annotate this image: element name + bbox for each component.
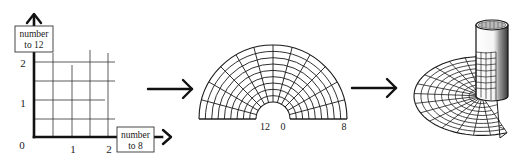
annulus-label-12: 12 — [260, 121, 270, 132]
x-tick-2: 2 — [106, 143, 112, 155]
annulus-panel — [199, 45, 347, 119]
origin-label: 0 — [19, 139, 25, 151]
cylinder-panel — [414, 20, 508, 138]
y-axis-label-box: number to 12 — [15, 26, 53, 52]
y-axis-label-line1: number — [19, 29, 49, 39]
x-axis-label-line2: to 8 — [128, 141, 143, 151]
cylinder — [476, 20, 508, 101]
arrow-grid-to-annulus — [148, 80, 192, 98]
x-tick-1: 1 — [70, 143, 76, 155]
annulus-label-8: 8 — [342, 121, 347, 132]
x-axis-arrowhead-icon — [163, 130, 171, 144]
annulus-label-0: 0 — [281, 121, 286, 132]
x-axis-label-box: number to 8 — [117, 127, 154, 152]
x-axis-label-line1: number — [121, 130, 151, 140]
diagram: number to 12 number to 8 0 1 2 1 2 12 0 … — [0, 0, 520, 159]
y-tick-2: 2 — [20, 57, 26, 69]
grid-lines — [34, 50, 115, 136]
grid-panel: number to 12 number to 8 0 1 2 1 2 — [15, 14, 171, 155]
y-tick-1: 1 — [20, 97, 26, 109]
arrow-annulus-to-cylinder — [352, 79, 396, 97]
y-axis-label-line2: to 12 — [24, 40, 44, 50]
